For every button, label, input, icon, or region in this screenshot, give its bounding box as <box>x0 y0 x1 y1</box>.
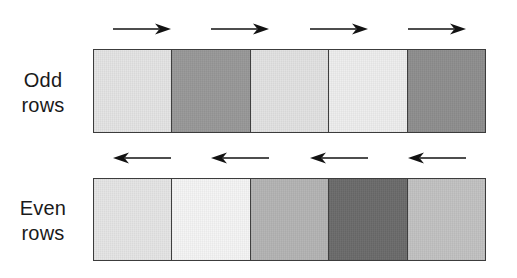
arrow-left-4 <box>388 145 486 171</box>
arrow-row-odd <box>93 16 486 42</box>
arrow-right-1 <box>93 16 191 42</box>
row-label-odd: Odd rows <box>4 68 82 118</box>
arrow-left-2 <box>191 145 289 171</box>
even-cell-1 <box>94 179 172 260</box>
odd-cell-1 <box>94 50 172 132</box>
even-cell-2 <box>172 179 250 260</box>
arrow-left-3 <box>290 145 388 171</box>
arrow-left-1 <box>93 145 191 171</box>
row-label-even-line2: rows <box>4 221 82 246</box>
odd-cell-2 <box>172 50 250 132</box>
odd-cell-5 <box>408 50 485 132</box>
figure-root: Odd rows <box>0 0 517 278</box>
strip-even-rows <box>93 178 486 261</box>
odd-cell-3 <box>251 50 329 132</box>
even-cell-4 <box>329 179 407 260</box>
even-cell-3 <box>251 179 329 260</box>
row-label-odd-line2: rows <box>4 93 82 118</box>
arrow-right-4 <box>388 16 486 42</box>
strip-odd-rows <box>93 49 486 133</box>
arrow-row-even <box>93 145 486 171</box>
row-label-odd-line1: Odd <box>4 68 82 93</box>
row-label-even: Even rows <box>4 196 82 246</box>
odd-cell-4 <box>329 50 407 132</box>
arrow-right-2 <box>191 16 289 42</box>
arrow-right-3 <box>290 16 388 42</box>
even-cell-5 <box>408 179 485 260</box>
row-label-even-line1: Even <box>4 196 82 221</box>
